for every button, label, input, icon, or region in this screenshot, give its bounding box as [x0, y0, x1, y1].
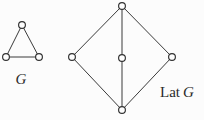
label-italic-text: G	[183, 84, 194, 100]
graph-edge-a-b	[6, 25, 22, 57]
top-element-node	[119, 3, 126, 10]
graph-g: G	[3, 22, 43, 87]
lattice-lat-g: Lat G	[69, 3, 194, 114]
graph-edge-top-left	[72, 6, 122, 57]
right-atom-node	[169, 54, 176, 61]
lattice-lat-g-label: Lat G	[160, 84, 194, 100]
left-atom-node	[69, 54, 76, 61]
label-italic-text: G	[16, 71, 27, 87]
apex-vertex	[19, 22, 26, 29]
graph-g-nodes	[3, 22, 43, 61]
graph-g-edges	[6, 25, 39, 57]
figure-root: G Lat G	[0, 0, 204, 120]
graph-edge-a-c	[22, 25, 39, 57]
bottom-left-vertex	[3, 54, 10, 61]
bottom-right-vertex	[36, 54, 43, 61]
graph-g-label: G	[16, 71, 27, 87]
middle-atom-node	[119, 55, 126, 62]
graph-edge-left-bottom	[72, 57, 122, 110]
label-prefix-text: Lat	[160, 84, 183, 100]
bottom-element-node	[119, 107, 126, 114]
diagram-canvas: G Lat G	[0, 0, 204, 120]
graph-edge-top-right	[122, 6, 172, 57]
